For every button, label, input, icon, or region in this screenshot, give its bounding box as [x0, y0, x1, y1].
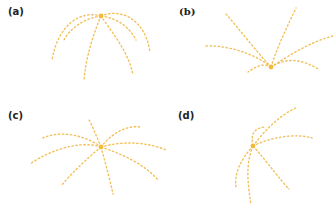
- panel-curves-a: [52, 13, 150, 80]
- dotted-curve: [226, 14, 271, 67]
- dotted-curve: [30, 145, 101, 164]
- dotted-curve: [101, 147, 113, 194]
- dotted-curve: [253, 108, 296, 146]
- dotted-curve: [252, 127, 265, 146]
- dotted-curve: [61, 147, 101, 186]
- dotted-curve: [253, 146, 289, 189]
- dotted-curve: [101, 16, 136, 40]
- dotted-curve: [52, 15, 101, 60]
- source-point-icon: [251, 144, 256, 149]
- dotted-curve: [271, 8, 296, 67]
- panel-curves-b: [205, 8, 333, 72]
- dotted-curve: [248, 65, 271, 72]
- source-point-icon: [269, 65, 274, 70]
- dotted-curve: [64, 16, 101, 40]
- fountain-curves-diagram: [0, 0, 333, 207]
- dotted-curve: [253, 136, 312, 146]
- dotted-curve: [236, 146, 253, 187]
- source-point-icon: [99, 145, 104, 150]
- dotted-curve: [101, 147, 158, 180]
- dotted-curve: [101, 13, 150, 52]
- dotted-curve: [101, 143, 166, 150]
- dotted-curve: [84, 16, 101, 80]
- dotted-curve: [205, 46, 271, 67]
- panel-curves-d: [236, 108, 312, 205]
- dotted-curve: [101, 16, 133, 75]
- dotted-curve: [248, 146, 253, 205]
- panel-curves-c: [30, 120, 166, 194]
- source-point-icon: [99, 14, 104, 19]
